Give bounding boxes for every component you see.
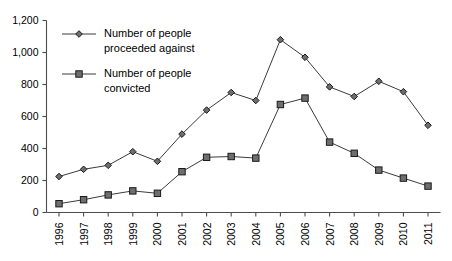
x-tick-label: 2001 xyxy=(176,222,188,246)
x-tick-label: 1997 xyxy=(78,222,90,246)
x-tick-label: 1999 xyxy=(127,222,139,246)
x-tick-label: 2009 xyxy=(373,222,385,246)
data-point-marker-square xyxy=(400,175,406,181)
data-point-marker-square xyxy=(302,95,308,101)
data-point-marker-diamond xyxy=(228,89,235,96)
y-tick-label: 1,200 xyxy=(12,14,38,26)
x-tick-label: 2011 xyxy=(422,222,434,245)
data-point-marker-square xyxy=(253,155,259,161)
x-tick-label: 2000 xyxy=(151,222,163,246)
data-point-marker-square xyxy=(76,71,82,77)
data-point-marker-square xyxy=(425,183,431,189)
x-axis-ticks: 1996199719981999200020012002200320042005… xyxy=(53,213,434,246)
y-tick-label: 1,000 xyxy=(12,46,38,58)
data-point-marker-square xyxy=(56,201,62,207)
data-point-marker-diamond xyxy=(253,97,260,104)
x-tick-label: 2007 xyxy=(324,222,336,246)
line-chart: 02004006008001,0001,20019961997199819992… xyxy=(0,0,452,261)
data-point-marker-diamond xyxy=(376,78,383,85)
series-line xyxy=(59,98,428,204)
x-tick-label: 2006 xyxy=(299,222,311,246)
legend-item-1[interactable]: Number of peopleproceeded against xyxy=(62,27,195,54)
legend-label-line2: proceeded against xyxy=(104,42,195,54)
y-tick-label: 600 xyxy=(21,110,39,122)
data-point-marker-square xyxy=(154,190,160,196)
x-tick-label: 2003 xyxy=(225,222,237,246)
data-point-marker-diamond xyxy=(80,166,87,173)
y-axis-ticks: 02004006008001,0001,200 xyxy=(12,14,46,218)
legend-item-2[interactable]: Number of peopleconvicted xyxy=(62,67,191,94)
data-point-marker-square xyxy=(277,101,283,107)
y-tick-label: 0 xyxy=(33,206,39,218)
data-point-marker-square xyxy=(203,154,209,160)
series-1 xyxy=(56,36,432,179)
x-tick-label: 2010 xyxy=(397,222,409,246)
legend-label-line2: convicted xyxy=(104,82,150,94)
x-tick-label: 2004 xyxy=(250,222,262,246)
data-point-marker-square xyxy=(179,169,185,175)
y-tick-label: 400 xyxy=(21,142,39,154)
series-2 xyxy=(56,95,431,207)
data-point-marker-square xyxy=(105,192,111,198)
series-line xyxy=(59,40,428,177)
data-point-marker-diamond xyxy=(56,173,63,180)
legend: Number of peopleproceeded againstNumber … xyxy=(62,27,195,94)
legend-label-line1: Number of people xyxy=(104,67,191,79)
x-tick-label: 2008 xyxy=(348,222,360,246)
data-point-marker-diamond xyxy=(76,31,83,38)
x-tick-label: 1996 xyxy=(53,222,65,246)
data-point-marker-square xyxy=(351,150,357,156)
data-point-marker-square xyxy=(326,139,332,145)
y-tick-label: 200 xyxy=(21,174,39,186)
legend-label-line1: Number of people xyxy=(104,27,191,39)
chart-container: 02004006008001,0001,20019961997199819992… xyxy=(0,0,452,261)
data-point-marker-square xyxy=(80,197,86,203)
x-tick-label: 2005 xyxy=(274,222,286,246)
data-point-marker-square xyxy=(376,167,382,173)
y-tick-label: 800 xyxy=(21,78,39,90)
x-tick-label: 2002 xyxy=(201,222,213,246)
data-point-marker-diamond xyxy=(351,93,358,100)
data-point-marker-square xyxy=(228,153,234,159)
data-point-marker-square xyxy=(130,188,136,194)
x-tick-label: 1998 xyxy=(102,222,114,246)
data-point-marker-diamond xyxy=(130,148,137,155)
data-point-marker-diamond xyxy=(277,36,284,43)
data-point-marker-diamond xyxy=(105,162,112,169)
